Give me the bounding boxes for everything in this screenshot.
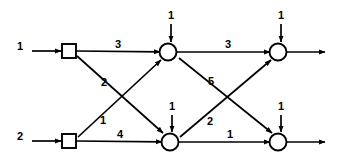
label-circle1-to-circle4: 5 <box>208 75 214 87</box>
label-square1-to-circle1: 3 <box>115 38 121 50</box>
label-source-to-circle3: 1 <box>278 9 284 21</box>
edge-circle2-to-circle3 <box>180 60 271 137</box>
label-source-to-circle2: 1 <box>169 100 175 112</box>
label-source-to-circle4: 1 <box>278 100 284 112</box>
label-circle1-to-circle3: 3 <box>225 38 231 50</box>
label-square1-to-circle2: 2 <box>101 76 107 88</box>
label-input-top: 1 <box>17 40 23 52</box>
node-square-2[interactable] <box>62 134 76 148</box>
node-square-1[interactable] <box>62 44 76 58</box>
node-circle-2[interactable] <box>162 134 179 151</box>
label-circle2-to-circle4: 1 <box>227 128 233 140</box>
diagram-canvas: 1 2 3 3 4 1 2 1 5 2 1 1 1 1 <box>0 0 341 160</box>
label-source-to-circle1: 1 <box>168 9 174 21</box>
label-square2-to-circle1: 1 <box>100 114 106 126</box>
node-circle-4[interactable] <box>270 134 287 151</box>
flow-network-diagram: 1 2 3 3 4 1 2 1 5 2 1 1 1 1 <box>0 0 341 160</box>
node-circle-3[interactable] <box>270 44 287 61</box>
label-input-bottom: 2 <box>17 130 23 142</box>
edge-square2-to-circle1 <box>78 60 161 137</box>
edge-circle1-to-circle4 <box>179 58 272 133</box>
edge-square1-to-circle1 <box>76 51 160 52</box>
edge-square2-to-circle2 <box>76 141 162 142</box>
label-square2-to-circle2: 4 <box>117 128 124 140</box>
edge-square1-to-circle2 <box>77 56 163 133</box>
label-circle2-to-circle3: 2 <box>207 115 213 127</box>
node-circle-1[interactable] <box>160 44 177 61</box>
